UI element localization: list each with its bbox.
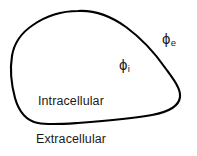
- phi-extracellular-label: ϕe: [162, 31, 176, 48]
- phi-e-subscript: e: [170, 37, 176, 48]
- phi-i-subscript: i: [127, 63, 129, 74]
- intracellular-label: Intracellular: [38, 95, 104, 108]
- phi-intracellular-label: ϕi: [119, 57, 130, 74]
- extracellular-label: Extracellular: [36, 133, 106, 146]
- cell-membrane-potential-diagram: Intracellular Extracellular ϕi ϕe: [0, 0, 197, 156]
